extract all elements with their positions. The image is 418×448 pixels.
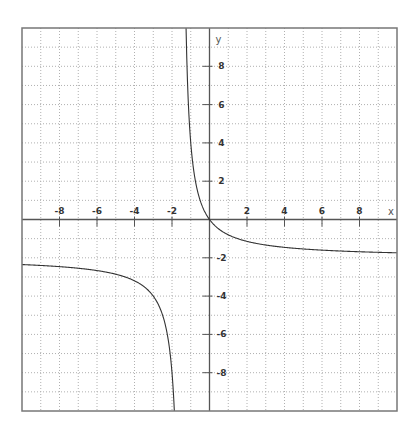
y-tick-label: -2 (217, 253, 227, 263)
y-tick-label: 6 (218, 100, 224, 110)
y-tick-label: -4 (217, 291, 227, 301)
x-tick-label: 2 (244, 206, 250, 216)
y-tick-label: -8 (217, 368, 227, 378)
left-branch (22, 265, 174, 411)
x-tick-label: -6 (92, 206, 102, 216)
function-plot: -8-6-4-224688642-2-4-6-8 x y (0, 0, 418, 448)
x-tick-label: -2 (167, 206, 177, 216)
x-tick-label: 8 (356, 206, 362, 216)
y-axis-label: y (216, 34, 222, 45)
x-tick-label: 4 (281, 206, 287, 216)
x-axis-label: x (388, 206, 394, 217)
y-tick-label: 4 (218, 138, 224, 148)
y-tick-label: 2 (218, 176, 224, 186)
y-tick-label: 8 (218, 61, 224, 71)
y-tick-label: -6 (217, 329, 227, 339)
x-tick-label: 6 (319, 206, 325, 216)
x-tick-label: -8 (55, 206, 65, 216)
x-tick-label: -4 (130, 206, 140, 216)
